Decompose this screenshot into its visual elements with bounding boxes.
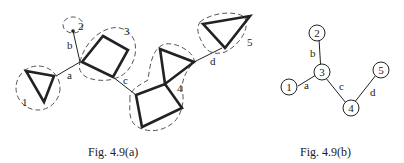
block-label-2: 2 xyxy=(78,20,84,32)
tree-edge-label-a: a xyxy=(304,79,309,91)
edge-label-a: a xyxy=(67,69,72,81)
tree-node-label-3: 3 xyxy=(319,66,325,78)
edge-label-d: d xyxy=(210,55,216,67)
bridge-b xyxy=(73,31,80,62)
figure-b xyxy=(281,25,389,116)
figure-a xyxy=(16,13,250,131)
tree-edge-label-d: d xyxy=(370,86,376,98)
block-2-vertex xyxy=(71,29,75,33)
block-3-square xyxy=(82,36,128,77)
tree-node-label-2: 2 xyxy=(314,27,320,39)
block-label-4: 4 xyxy=(177,82,183,94)
edge-label-b: b xyxy=(67,39,73,51)
diagram-canvas: 1 2 3 4 5 a b c d Fig. 4.9(a) 1 2 3 4 5 … xyxy=(0,0,404,163)
tree-node-label-5: 5 xyxy=(378,64,384,76)
block-shapes xyxy=(26,16,250,127)
block-1-triangle xyxy=(26,71,54,102)
tree-node-label-1: 1 xyxy=(286,81,292,93)
block-label-1: 1 xyxy=(22,96,28,108)
tree-node-label-4: 4 xyxy=(348,102,354,114)
block-label-5: 5 xyxy=(247,36,253,48)
caption-fig-a: Fig. 4.9(a) xyxy=(88,145,138,159)
block-5-triangle xyxy=(203,16,250,48)
edge-label-c: c xyxy=(123,74,128,86)
block-label-3: 3 xyxy=(124,25,130,37)
block-boundaries xyxy=(16,13,246,131)
tree-edge-label-c: c xyxy=(339,80,344,92)
caption-fig-b: Fig. 4.9(b) xyxy=(300,145,351,159)
block-4-triangle xyxy=(160,49,194,84)
tree-edge-label-b: b xyxy=(310,47,316,59)
